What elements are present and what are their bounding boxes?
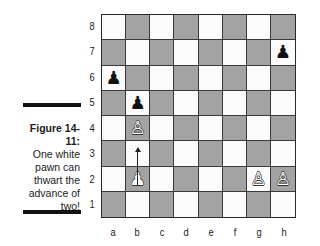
square-h1[interactable]	[271, 192, 295, 217]
caption-bottom-rule	[23, 210, 81, 214]
square-a1[interactable]	[102, 192, 126, 217]
file-label-d: d	[176, 226, 196, 238]
white-pawn-icon[interactable]: ♙	[275, 170, 291, 188]
square-b1[interactable]	[126, 192, 150, 217]
square-f3[interactable]	[223, 141, 247, 166]
black-pawn-icon[interactable]: ♟	[105, 69, 121, 87]
square-g4[interactable]	[247, 116, 271, 141]
square-c8[interactable]	[150, 15, 174, 40]
file-label-g: g	[249, 226, 269, 238]
black-pawn-icon[interactable]: ♟	[275, 43, 291, 61]
rank-label-8: 8	[87, 20, 97, 32]
square-e4[interactable]	[199, 116, 223, 141]
square-g5[interactable]	[247, 91, 271, 116]
square-b5[interactable]: ♟	[126, 91, 150, 116]
square-a8[interactable]	[102, 15, 126, 40]
square-c4[interactable]	[150, 116, 174, 141]
file-label-e: e	[200, 226, 220, 238]
caption-line: pawn can	[22, 161, 80, 174]
rank-label-7: 7	[87, 45, 97, 57]
square-f6[interactable]	[223, 66, 247, 91]
square-b7[interactable]	[126, 40, 150, 65]
square-a7[interactable]	[102, 40, 126, 65]
chess-board: ♟♟♟♙♟♙♙	[101, 14, 296, 218]
rank-label-2: 2	[87, 173, 97, 185]
file-label-a: a	[103, 226, 123, 238]
file-label-f: f	[225, 226, 245, 238]
square-h2[interactable]: ♙	[271, 167, 295, 192]
square-f8[interactable]	[223, 15, 247, 40]
file-label-h: h	[273, 226, 293, 238]
square-e5[interactable]	[199, 91, 223, 116]
square-b8[interactable]	[126, 15, 150, 40]
square-f2[interactable]	[223, 167, 247, 192]
square-c2[interactable]	[150, 167, 174, 192]
caption-line: One white	[22, 148, 80, 161]
square-g2[interactable]: ♙	[247, 167, 271, 192]
square-h6[interactable]	[271, 66, 295, 91]
square-c7[interactable]	[150, 40, 174, 65]
square-b6[interactable]	[126, 66, 150, 91]
square-f5[interactable]	[223, 91, 247, 116]
square-d2[interactable]	[174, 167, 198, 192]
square-f7[interactable]	[223, 40, 247, 65]
square-d3[interactable]	[174, 141, 198, 166]
rank-label-4: 4	[87, 122, 97, 134]
square-a5[interactable]	[102, 91, 126, 116]
square-d7[interactable]	[174, 40, 198, 65]
square-h4[interactable]	[271, 116, 295, 141]
square-e8[interactable]	[199, 15, 223, 40]
rank-label-3: 3	[87, 147, 97, 159]
rank-label-1: 1	[87, 198, 97, 210]
square-f1[interactable]	[223, 192, 247, 217]
white-pawn-icon[interactable]: ♙	[250, 170, 266, 188]
square-h8[interactable]	[271, 15, 295, 40]
square-e3[interactable]	[199, 141, 223, 166]
black-pawn-icon[interactable]: ♟	[130, 94, 146, 112]
square-f4[interactable]	[223, 116, 247, 141]
square-a2[interactable]	[102, 167, 126, 192]
square-c6[interactable]	[150, 66, 174, 91]
square-a6[interactable]: ♟	[102, 66, 126, 91]
square-e1[interactable]	[199, 192, 223, 217]
rank-label-5: 5	[87, 96, 97, 108]
figure-label: Figure 14-11:	[22, 122, 80, 148]
square-d4[interactable]	[174, 116, 198, 141]
square-e2[interactable]	[199, 167, 223, 192]
caption-line: advance of	[22, 187, 80, 200]
move-arrow-b2-b4	[137, 150, 138, 185]
square-b4[interactable]: ♙	[126, 116, 150, 141]
square-h3[interactable]	[271, 141, 295, 166]
square-e7[interactable]	[199, 40, 223, 65]
square-g8[interactable]	[247, 15, 271, 40]
square-d5[interactable]	[174, 91, 198, 116]
square-c5[interactable]	[150, 91, 174, 116]
file-label-c: c	[152, 226, 172, 238]
square-c1[interactable]	[150, 192, 174, 217]
figure-caption: Figure 14-11: One white pawn can thwart …	[22, 122, 80, 213]
caption-top-rule	[23, 103, 81, 107]
square-a4[interactable]	[102, 116, 126, 141]
square-b3[interactable]	[126, 141, 150, 166]
square-g1[interactable]	[247, 192, 271, 217]
square-a3[interactable]	[102, 141, 126, 166]
rank-label-6: 6	[87, 71, 97, 83]
square-b2[interactable]: ♟	[126, 167, 150, 192]
square-h7[interactable]: ♟	[271, 40, 295, 65]
square-e6[interactable]	[199, 66, 223, 91]
caption-line: thwart the	[22, 174, 80, 187]
white-pawn-icon[interactable]: ♙	[130, 119, 146, 137]
square-h5[interactable]	[271, 91, 295, 116]
square-d1[interactable]	[174, 192, 198, 217]
square-g3[interactable]	[247, 141, 271, 166]
square-c3[interactable]	[150, 141, 174, 166]
square-g7[interactable]	[247, 40, 271, 65]
square-d8[interactable]	[174, 15, 198, 40]
file-label-b: b	[127, 226, 147, 238]
square-d6[interactable]	[174, 66, 198, 91]
square-g6[interactable]	[247, 66, 271, 91]
